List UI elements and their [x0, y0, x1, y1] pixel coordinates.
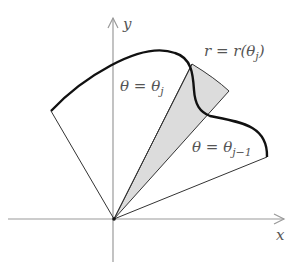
y-axis-label: y — [123, 17, 131, 32]
y-axis — [108, 18, 118, 262]
x-axis-label: x — [276, 228, 284, 243]
curve-label: r = r(θj) — [204, 44, 265, 62]
x-axis — [8, 214, 284, 224]
diagram-svg — [0, 0, 298, 270]
ray-left — [51, 111, 114, 219]
origin-point — [112, 217, 116, 221]
ray-theta-j-label: θ = θj — [120, 79, 164, 97]
polar-area-diagram: y x r = r(θj) θ = θj θ = θj−1 — [0, 0, 298, 270]
ray-theta-j-minus-1-label: θ = θj−1 — [192, 140, 252, 158]
